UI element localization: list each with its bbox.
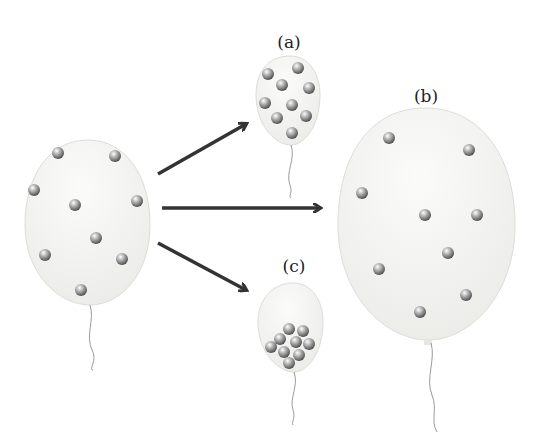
balloon-diagram: (a) (c) [0, 0, 539, 436]
label-b: (b) [414, 86, 438, 106]
label-a: (a) [277, 32, 300, 52]
label-c: (c) [283, 256, 306, 276]
arrow-to-a [158, 124, 246, 174]
original-balloon [25, 140, 150, 370]
balloon-a: (a) [256, 32, 320, 198]
balloon-b: (b) [338, 86, 515, 432]
arrow-to-c [158, 243, 246, 290]
balloon-c: (c) [258, 256, 323, 425]
